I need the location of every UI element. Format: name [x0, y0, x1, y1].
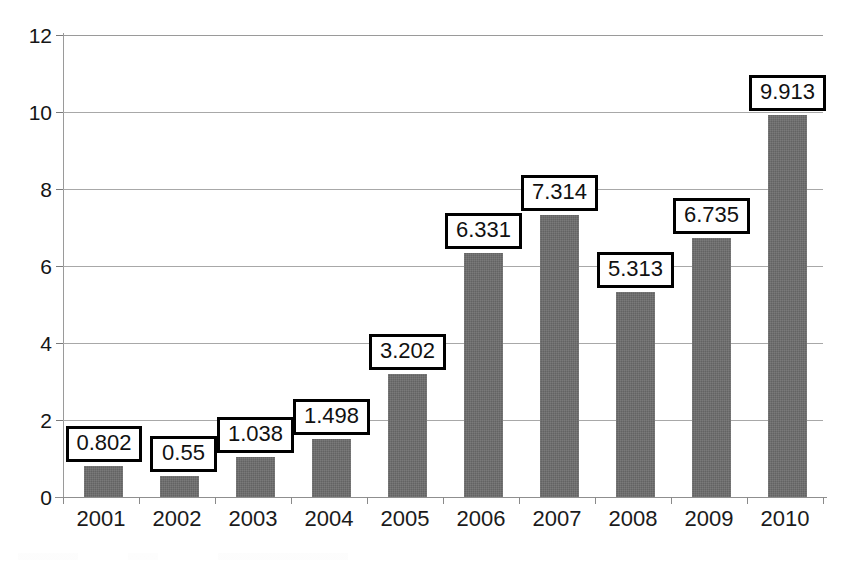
x-axis-tick-mark — [291, 497, 292, 504]
x-axis-label-2003: 2003 — [215, 508, 291, 530]
x-axis-label-2002: 2002 — [139, 508, 215, 530]
bar-2002 — [160, 476, 199, 497]
x-axis-tick-mark — [595, 497, 596, 504]
y-axis-tick-label: 10 — [0, 102, 52, 123]
y-axis-tick-label: 0 — [0, 487, 52, 508]
bar-2009 — [692, 238, 731, 497]
x-axis-tick-mark — [747, 497, 748, 504]
y-axis-tick-label: 12 — [0, 25, 52, 46]
x-axis-line — [55, 497, 827, 498]
x-axis-label-2001: 2001 — [63, 508, 139, 530]
x-axis-tick-mark — [367, 497, 368, 504]
x-axis-tick-mark — [63, 497, 64, 504]
value-label-2010: 9.913 — [749, 75, 826, 111]
x-axis-tick-mark — [671, 497, 672, 504]
value-label-2008: 5.313 — [597, 252, 674, 288]
x-axis-tick-mark — [823, 497, 824, 504]
y-axis-tick-label: 8 — [0, 179, 52, 200]
value-label-2004: 1.498 — [293, 399, 370, 435]
x-axis-label-2006: 2006 — [443, 508, 519, 530]
bar-2005 — [388, 374, 427, 497]
x-axis-label-2007: 2007 — [519, 508, 595, 530]
value-label-2007: 7.314 — [521, 175, 598, 211]
x-axis-tick-mark — [519, 497, 520, 504]
bar-2004 — [312, 439, 351, 497]
y-axis-tick-label: 2 — [0, 410, 52, 431]
x-axis-tick-mark — [139, 497, 140, 504]
y-axis-tick-label: 4 — [0, 333, 52, 354]
value-label-2002: 0.55 — [150, 436, 217, 472]
plot-area — [63, 35, 823, 497]
gridline-10 — [63, 112, 823, 113]
bar-2007 — [540, 215, 579, 497]
bar-2006 — [464, 253, 503, 497]
gridline-8 — [63, 189, 823, 190]
x-axis-label-2009: 2009 — [671, 508, 747, 530]
bar-2008 — [616, 292, 655, 497]
bar-chart: 12 10 8 6 4 2 0 0.802 0.55 1.038 1.498 3… — [0, 0, 852, 565]
page-edge-artifact — [18, 553, 438, 560]
bar-2003 — [236, 457, 275, 497]
value-label-2001: 0.802 — [66, 426, 142, 462]
x-axis-label-2010: 2010 — [747, 508, 823, 530]
x-axis-label-2005: 2005 — [367, 508, 443, 530]
bar-2001 — [84, 466, 123, 497]
x-axis-tick-mark — [443, 497, 444, 504]
value-label-2003: 1.038 — [217, 417, 294, 453]
x-axis-label-2004: 2004 — [291, 508, 367, 530]
gridline-12 — [63, 35, 823, 36]
y-axis-tick-label: 6 — [0, 256, 52, 277]
x-axis-label-2008: 2008 — [595, 508, 671, 530]
value-label-2006: 6.331 — [445, 213, 522, 249]
value-label-2005: 3.202 — [369, 334, 446, 370]
value-label-2009: 6.735 — [673, 198, 750, 234]
x-axis-tick-mark — [215, 497, 216, 504]
bar-2010 — [768, 115, 807, 497]
